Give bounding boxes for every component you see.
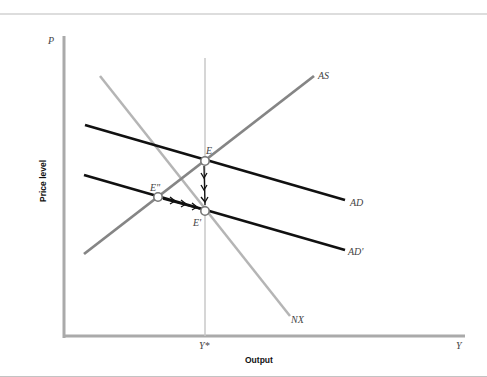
y-axis-title: Price level [38, 160, 48, 202]
as-label: AS [317, 70, 329, 81]
adas-chart: P Y Y* AS AD AD' NX E E' E" Output Price… [0, 0, 487, 377]
nx-curve [100, 76, 290, 316]
x-axis-title: Output [245, 355, 273, 365]
ad-label: AD [349, 197, 364, 208]
y-star-tick: Y* [199, 340, 210, 351]
point-e-double-prime [154, 193, 162, 201]
ad-curve [85, 125, 345, 200]
arrows-down [201, 166, 208, 205]
e-label: E [205, 145, 212, 156]
point-e [201, 157, 209, 165]
e-double-prime-label: E" [149, 182, 161, 193]
ad-prime-label: AD' [347, 246, 364, 257]
nx-label: NX [290, 314, 305, 325]
ad-prime-curve [84, 175, 345, 250]
y-axis-symbol: P [47, 35, 54, 46]
point-e-prime [201, 207, 209, 215]
e-prime-label: E' [192, 217, 202, 228]
x-axis-symbol: Y [456, 340, 463, 351]
